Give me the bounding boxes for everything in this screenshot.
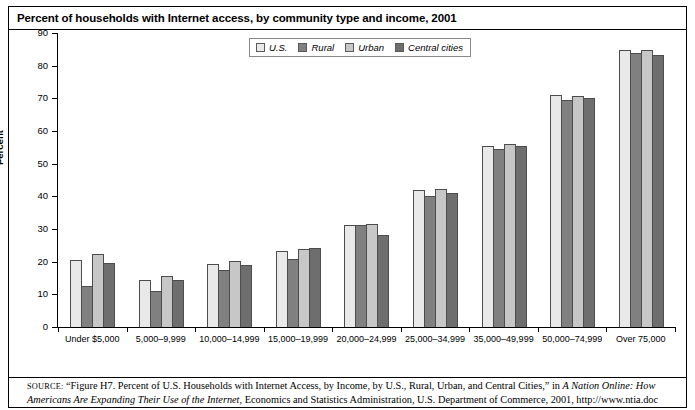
x-axis-line [57, 327, 675, 328]
bar [309, 248, 321, 327]
bar-group [606, 33, 675, 327]
y-axis-tick: 70 [52, 98, 57, 99]
bar-group [127, 33, 196, 327]
y-axis-tick-label: 40 [37, 190, 48, 201]
bar [218, 270, 230, 327]
x-axis-tick [538, 327, 539, 332]
x-axis-tick-label: 5,000–9,999 [136, 334, 186, 344]
bar [641, 50, 653, 327]
bar [366, 224, 378, 327]
source-part2: , Economics and Statistics Administratio… [239, 394, 658, 405]
y-axis-title: Percent [0, 130, 5, 165]
bar [161, 276, 173, 327]
bar-group [538, 33, 607, 327]
x-axis-tick-label: 50,000–74,999 [542, 334, 602, 344]
x-axis-tick [332, 327, 333, 332]
x-axis-tick-label: 20,000–24,999 [336, 334, 396, 344]
y-axis-tick-label: 20 [37, 256, 48, 267]
y-axis-tick: 50 [52, 164, 57, 165]
plot-area [58, 33, 675, 327]
y-axis-tick-label: 90 [37, 27, 48, 38]
source-label: SOURCE: [27, 382, 63, 391]
bar [630, 53, 642, 327]
x-axis-tick-label: 15,000–19,999 [268, 334, 328, 344]
bar [515, 146, 527, 327]
bar [139, 280, 151, 327]
bar [619, 50, 631, 327]
bar [572, 96, 584, 327]
bar-group [58, 33, 127, 327]
x-axis-tick [127, 327, 128, 332]
bar [70, 260, 82, 327]
source-box: SOURCE: “Figure H7. Percent of U.S. Hous… [8, 378, 687, 408]
bar [550, 95, 562, 327]
bar [377, 235, 389, 327]
figure-container: Percent of households with Internet acce… [0, 0, 695, 410]
bar [344, 225, 356, 327]
bar [150, 291, 162, 327]
bar [561, 100, 573, 327]
y-axis-tick-label: 0 [43, 321, 48, 332]
bar-group [469, 33, 538, 327]
y-axis-tick: 0 [52, 327, 57, 328]
y-axis-tick: 60 [52, 131, 57, 132]
y-axis-tick-label: 10 [37, 288, 48, 299]
bar [240, 265, 252, 327]
x-axis-tick [58, 327, 59, 332]
legend-item-central-cities: Central cities [395, 42, 463, 53]
y-axis-tick: 40 [52, 196, 57, 197]
legend-item-u-s: U.S. [256, 42, 287, 53]
legend-label: Rural [311, 42, 334, 53]
legend-label: Central cities [408, 42, 463, 53]
legend-item-rural: Rural [298, 42, 334, 53]
bar [276, 251, 288, 327]
x-axis-tick-label: 25,000–34,999 [405, 334, 465, 344]
x-axis-tick [195, 327, 196, 332]
bar-group [332, 33, 401, 327]
bar [355, 225, 367, 327]
source-note: SOURCE: “Figure H7. Percent of U.S. Hous… [27, 380, 677, 406]
bar-group [195, 33, 264, 327]
y-axis-tick-label: 60 [37, 125, 48, 136]
y-axis-tick-label: 50 [37, 158, 48, 169]
bar [446, 193, 458, 327]
x-axis-tick [264, 327, 265, 332]
bar-group [264, 33, 333, 327]
bar-group [401, 33, 470, 327]
y-axis-tick-label: 80 [37, 60, 48, 71]
x-axis-tick-label: 35,000–49,999 [474, 334, 534, 344]
page-title: Percent of households with Internet acce… [17, 12, 457, 24]
bar [207, 264, 219, 327]
y-axis-tick: 30 [52, 229, 57, 230]
legend-label: Urban [358, 42, 384, 53]
x-axis-tick [606, 327, 607, 332]
bar [583, 98, 595, 327]
bar [287, 259, 299, 327]
legend-swatch-icon [256, 43, 265, 52]
y-axis-tick: 10 [52, 294, 57, 295]
y-axis-tick-label: 70 [37, 92, 48, 103]
bar [413, 190, 425, 327]
x-axis-tick-label: Over 75,000 [616, 334, 666, 344]
chart-legend: U.S.RuralUrbanCentral cities [249, 38, 471, 57]
legend-swatch-icon [395, 43, 404, 52]
title-bar: Percent of households with Internet acce… [8, 6, 687, 30]
x-axis-tick [469, 327, 470, 332]
x-axis-tick-label: Under $5,000 [65, 334, 120, 344]
bar [504, 144, 516, 327]
x-axis-tick [401, 327, 402, 332]
bar [229, 261, 241, 327]
x-axis-tick [675, 327, 676, 332]
legend-label: U.S. [269, 42, 287, 53]
y-axis-tick: 80 [52, 66, 57, 67]
bar [103, 263, 115, 327]
bar [298, 249, 310, 327]
legend-swatch-icon [345, 43, 354, 52]
legend-swatch-icon [298, 43, 307, 52]
bar [81, 286, 93, 327]
legend-item-urban: Urban [345, 42, 384, 53]
bar [172, 280, 184, 327]
source-part1: “Figure H7. Percent of U.S. Households w… [63, 380, 562, 391]
bar [435, 189, 447, 328]
bar [92, 254, 104, 327]
